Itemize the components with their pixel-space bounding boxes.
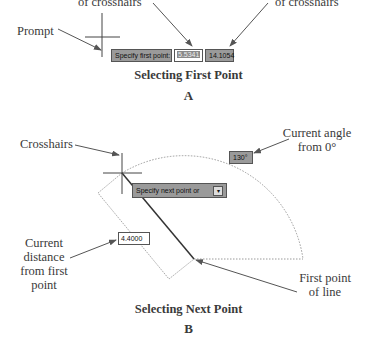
- prompt-tooltip-next-point: Specify next point or ▾: [132, 183, 227, 198]
- down-arrow-icon[interactable]: ▾: [213, 186, 223, 196]
- y-coordinate-label: of crosshairs: [275, 0, 339, 9]
- x-coordinate-label: of crosshairs: [78, 0, 142, 9]
- angle-field[interactable]: 130°: [229, 151, 253, 164]
- distance-label-line4: point: [14, 278, 74, 292]
- distance-label-line1: Current: [14, 236, 74, 250]
- distance-label-line3: from first: [14, 264, 74, 278]
- leaders-b: [70, 139, 297, 292]
- figure-letter-b: B: [0, 321, 377, 337]
- caption-a: Selecting First Point: [0, 68, 377, 83]
- x-coordinate-value: 5.5341: [177, 51, 200, 58]
- prompt-label: Prompt: [17, 24, 54, 38]
- distance-label-line2: distance: [14, 250, 74, 264]
- caption-b: Selecting Next Point: [0, 302, 377, 317]
- x-coordinate-field[interactable]: 5.5341: [174, 49, 203, 62]
- angle-label-line1: Current angle: [262, 126, 372, 140]
- leaders-a: [58, 3, 268, 50]
- angle-label-line2: from 0°: [262, 140, 372, 154]
- first-point-label-line2: of line: [290, 285, 360, 299]
- first-point-label-line1: First point: [290, 271, 360, 285]
- figure-letter-a: A: [0, 88, 377, 104]
- distance-field[interactable]: 4.4000: [118, 232, 150, 245]
- crosshairs-label: Crosshairs: [20, 137, 73, 151]
- prompt-text: Specify next point or: [136, 187, 199, 194]
- y-coordinate-field[interactable]: 14.1054: [205, 49, 234, 62]
- prompt-tooltip-first-point: Specify first point:: [111, 49, 172, 62]
